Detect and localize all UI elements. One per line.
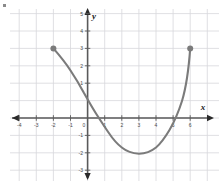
y-tick-label: 5 — [80, 11, 83, 17]
y-tick-label: -2 — [79, 150, 84, 156]
x-axis-label: x — [200, 102, 206, 112]
x-tick-label: 6 — [189, 122, 192, 128]
x-tick-label: 4 — [155, 122, 158, 128]
y-tick-label: -1 — [79, 132, 84, 138]
x-tick-label: 3 — [138, 122, 141, 128]
x-tick-label: -3 — [34, 122, 39, 128]
x-tick-label: -4 — [17, 122, 22, 128]
y-tick-label: 3 — [80, 45, 83, 51]
graph-container: -4 -3 -2 -1 0 1 2 3 4 5 6 5 4 3 2 1 -1 -… — [0, 0, 224, 184]
right-endpoint-dot — [187, 45, 193, 51]
y-tick-label: 4 — [80, 28, 83, 34]
x-tick-label: -2 — [51, 122, 56, 128]
y-tick-label: 2 — [80, 63, 83, 69]
x-tick-label-origin: 0 — [83, 122, 86, 128]
y-tick-label: -3 — [79, 167, 84, 173]
x-tick-label: -1 — [68, 122, 73, 128]
corner-marker — [3, 4, 6, 7]
left-endpoint-dot — [50, 45, 56, 51]
x-tick-label: 2 — [120, 122, 123, 128]
coordinate-plane: -4 -3 -2 -1 0 1 2 3 4 5 6 5 4 3 2 1 -1 -… — [0, 0, 224, 184]
